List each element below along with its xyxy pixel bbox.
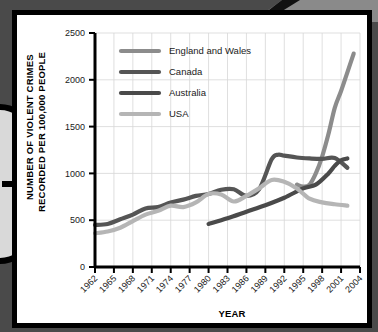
x-tick-label: 1980	[192, 273, 213, 294]
x-tick-label: 2001	[324, 273, 345, 294]
x-tick-label: 1965	[97, 273, 118, 294]
x-tick-label: 1989	[249, 273, 270, 294]
chart-legend: England and WalesCanadaAustraliaUSA	[121, 45, 251, 119]
x-axis-label: YEAR	[218, 308, 245, 319]
gridlines	[95, 33, 360, 267]
axes	[89, 33, 360, 273]
y-axis-label-line1: NUMBER OF VIOLENT CRIMES	[24, 54, 35, 200]
y-tick-label: 500	[70, 215, 85, 225]
x-tick-label: 2004	[343, 273, 364, 294]
y-tick-label: 1500	[65, 122, 85, 132]
y-tick-label: 2000	[65, 75, 85, 85]
y-axis-label-line2: RECORDED PER 100,000 PEOPLE	[36, 52, 47, 212]
x-tick-label: 1974	[154, 273, 175, 294]
legend-label-usa: USA	[169, 108, 189, 119]
legend-label-england-and-wales: England and Wales	[169, 45, 251, 56]
x-tick-label: 1971	[135, 273, 156, 294]
violent-crimes-line-chart: 0500100015002000250019621965196819711974…	[17, 15, 367, 323]
y-tick-label: 2500	[65, 28, 85, 38]
y-tick-label: 1000	[65, 169, 85, 179]
x-tick-label: 1968	[116, 273, 137, 294]
x-tick-label: 1962	[78, 273, 99, 294]
x-tick-label: 1995	[286, 273, 307, 294]
x-tick-label: 1977	[173, 273, 194, 294]
x-tick-label: 1986	[230, 273, 251, 294]
x-tick-label: 1998	[305, 273, 326, 294]
x-tick-label: 1992	[267, 273, 288, 294]
legend-label-canada: Canada	[169, 66, 203, 77]
series-line-australia	[209, 158, 348, 224]
chart-figure-frame: 0500100015002000250019621965196819711974…	[12, 10, 372, 328]
x-tick-label: 1983	[211, 273, 232, 294]
y-tick-label: 0	[80, 262, 85, 272]
series-lines	[95, 54, 354, 234]
legend-label-australia: Australia	[169, 87, 207, 98]
